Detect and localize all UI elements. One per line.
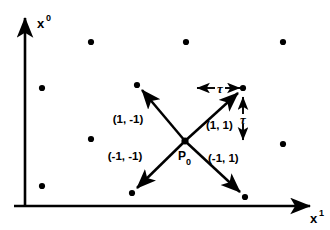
- x0-axis-label-base: x: [37, 16, 45, 31]
- lattice-point: [242, 194, 248, 200]
- lattice-point: [183, 39, 189, 45]
- lattice-point: [280, 141, 286, 147]
- vector-down-right-arrow: [185, 141, 240, 192]
- tau-vertical-marker: τ: [240, 97, 247, 140]
- lattice-point: [280, 39, 286, 45]
- lattice-point: [88, 136, 94, 142]
- x0-axis-label-superscript: 0: [46, 13, 51, 23]
- x0-axis-label: x 0: [37, 13, 51, 31]
- lattice-point: [240, 85, 246, 91]
- vector-down-left-label: (-1, -1): [108, 150, 143, 162]
- vector-up-right-arrow: [185, 93, 238, 141]
- x1-axis-label-superscript: 1: [319, 208, 324, 218]
- tau-horizontal-marker: τ: [197, 81, 240, 96]
- P0-label-base: P: [178, 149, 186, 163]
- vector-up-right-label: (1, 1): [206, 119, 233, 131]
- x1-axis-label: x 1: [310, 208, 324, 226]
- lattice-point: [39, 183, 45, 189]
- lattice-points-group: [39, 39, 286, 200]
- tau-vertical-label: τ: [240, 112, 247, 127]
- vector-up-left-label: (1, -1): [113, 113, 144, 125]
- vector-down-right-label: (-1, 1): [208, 152, 239, 164]
- figure-canvas: x 0 x 1: [0, 0, 330, 230]
- tau-horizontal-label: τ: [217, 81, 224, 96]
- x1-axis-label-base: x: [310, 211, 318, 226]
- lattice-point: [134, 82, 140, 88]
- center-point-P0-dot: [181, 137, 188, 144]
- vector-lattice-diagram: x 0 x 1: [0, 0, 330, 230]
- center-point-P0-label: P 0: [178, 149, 191, 167]
- lattice-point: [129, 190, 135, 196]
- lattice-point: [88, 39, 94, 45]
- P0-label-subscript: 0: [186, 157, 191, 167]
- lattice-point: [39, 85, 45, 91]
- vector-up-left-arrow: [142, 90, 185, 141]
